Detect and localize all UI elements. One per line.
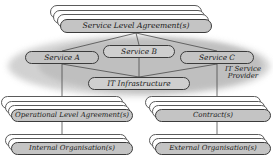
node-label-external-org: External Organisation(s) [169,145,257,152]
node-service-b[interactable]: Service B [103,45,175,58]
slm-scope-diagram: Service Level Agreement(s) Service A Ser… [0,0,273,166]
link-service-c-to-infra [139,64,217,77]
caption-it-service-provider: IT Service Provider [219,66,267,81]
node-label-service-a: Service A [44,54,80,61]
node-service-c[interactable]: Service C [180,51,254,64]
node-label-contracts: Contract(s) [193,112,233,119]
node-service-level-agreement[interactable]: Service Level Agreement(s) [60,19,212,33]
link-sla-to-service-b [136,33,139,45]
node-service-a[interactable]: Service A [25,51,99,64]
node-external-organisation[interactable]: External Organisation(s) [155,142,271,155]
node-contracts[interactable]: Contract(s) [155,109,271,122]
node-label-sla: Service Level Agreement(s) [83,22,190,30]
node-it-infrastructure[interactable]: IT Infrastructure [88,77,190,90]
node-label-it-infrastructure: IT Infrastructure [107,80,170,87]
link-service-a-to-infra [62,64,139,77]
node-operational-level-agreement[interactable]: Operational Level Agreement(s) [11,109,133,122]
node-label-internal-org: Internal Organisation(s) [29,145,115,152]
node-label-ola: Operational Level Agreement(s) [15,112,129,119]
node-internal-organisation[interactable]: Internal Organisation(s) [11,142,133,155]
node-label-service-b: Service B [121,48,157,55]
node-label-service-c: Service C [199,54,235,61]
